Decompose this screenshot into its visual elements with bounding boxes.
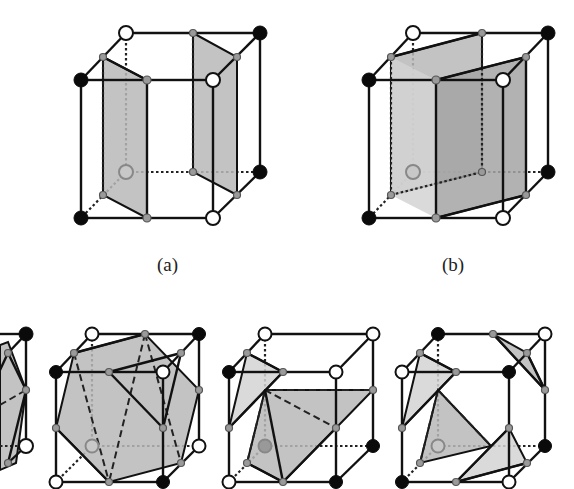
vertex-inside (367, 440, 380, 453)
vertex-outside-hidden (406, 165, 420, 179)
caption-a: (a) (157, 254, 178, 276)
cube-c2 (50, 328, 206, 489)
vertex-outside (496, 211, 510, 225)
vertex-outside (367, 328, 380, 341)
vertex-inside (223, 366, 236, 379)
surface-triangle-c (420, 390, 491, 463)
vertex-inside (541, 26, 555, 40)
vertex-outside-hidden (119, 165, 133, 179)
vertex-inside (539, 440, 552, 453)
vertex-outside (496, 73, 510, 87)
vertex-inside (193, 328, 206, 341)
vertex-outside (50, 476, 63, 489)
vertex-inside (253, 26, 267, 40)
surface-right (193, 33, 237, 195)
vertex-outside-hidden (432, 440, 445, 453)
vertex-inside (74, 73, 88, 87)
vertex-outside (259, 328, 272, 341)
surface-fan (247, 390, 373, 482)
cube-c4 (396, 328, 552, 489)
vertex-outside (193, 440, 206, 453)
vertex-outside (86, 328, 99, 341)
vertex-inside (541, 165, 555, 179)
vertex-inside (253, 165, 267, 179)
vertex-inside (503, 366, 516, 379)
vertex-inside-hidden (259, 440, 272, 453)
vertex-outside (206, 211, 220, 225)
vertex-inside (330, 476, 343, 489)
caption-b: (b) (442, 254, 464, 276)
vertex-inside (157, 476, 170, 489)
vertex-outside (157, 366, 170, 379)
vertex-inside (50, 366, 63, 379)
vertex-outside-hidden (86, 440, 99, 453)
cube-c1-partial (0, 327, 33, 470)
vertex-outside (503, 476, 516, 489)
vertex-outside (19, 439, 33, 453)
vertex-outside (223, 476, 236, 489)
cube-a (74, 26, 267, 225)
vertex-outside (406, 26, 420, 40)
vertex-inside (362, 73, 376, 87)
vertex-outside (119, 26, 133, 40)
vertex-outside (396, 366, 409, 379)
cube-b (362, 26, 555, 225)
vertex-inside (19, 327, 33, 341)
vertex-inside (74, 211, 88, 225)
vertex-inside (362, 211, 376, 225)
vertex-inside (432, 328, 445, 341)
vertex-inside (396, 476, 409, 489)
cube-c3 (223, 328, 380, 489)
vertex-outside (539, 328, 552, 341)
diagram-canvas (0, 0, 574, 489)
vertex-outside (206, 73, 220, 87)
vertex-outside (330, 366, 343, 379)
